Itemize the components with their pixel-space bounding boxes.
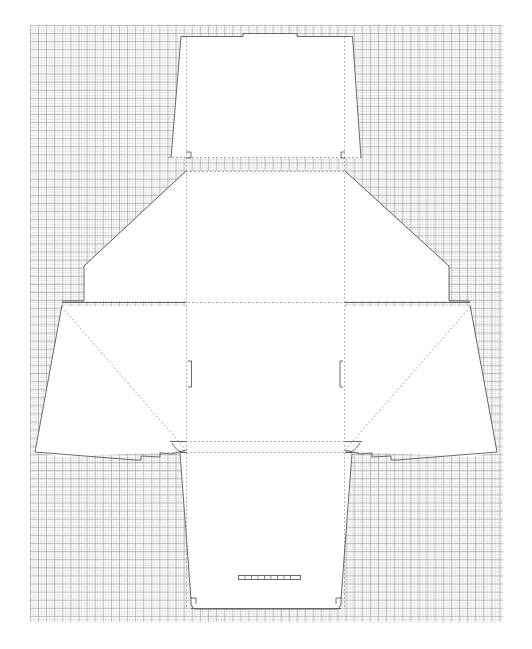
fill-bottom-panel [180,453,352,609]
fill-upper-band [84,171,449,301]
dieline-artwork: .cut { fill:none; stroke:#5a5a5a; stroke… [0,0,532,649]
fill-top-tuck-flap [171,34,361,159]
fill-center-lower [186,301,345,455]
panel-fills [35,34,497,610]
dieline-canvas: .cut { fill:none; stroke:#5a5a5a; stroke… [0,0,532,649]
